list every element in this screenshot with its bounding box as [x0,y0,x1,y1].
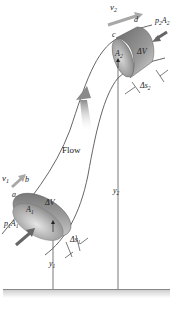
label-y2: y2 [112,186,120,196]
label-y1: y1 [48,259,56,269]
label-ds2: Δs2 [139,81,151,91]
label-b: b [25,175,29,184]
label-dV2: ΔV [136,47,148,56]
ground-shade [3,290,170,298]
bernoulli-tube-diagram: Flow [0,0,185,311]
fluid-element-1 [6,184,78,248]
p2A2-force-arrow [152,32,167,42]
label-c: c [112,30,116,39]
label-v1: v1 [2,173,9,184]
v1-velocity-arrow [12,174,26,187]
label-dV1: ΔV [44,198,56,207]
label-v2: v2 [110,2,117,13]
label-ds1: Δs1 [69,235,81,245]
flow-label: Flow [62,145,81,155]
label-a: a [12,190,16,199]
label-p2A2: p2A2 [154,16,170,26]
flow-direction-arrow [76,86,92,132]
